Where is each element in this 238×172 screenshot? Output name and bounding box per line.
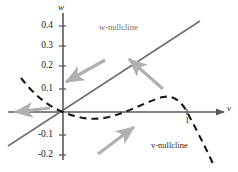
arrow-up-right [98, 127, 134, 154]
w-axis-label: w [58, 3, 64, 12]
phase-plane-figure: w v 0.4 0.3 0.2 0.1 -0.1 -0.2 1 w-nullcl… [0, 0, 238, 172]
y-tick-label-3: 0.1 [17, 84, 53, 94]
y-tick-label-0: 0.4 [17, 21, 53, 31]
y-tick-label-4: -0.1 [12, 130, 53, 140]
vector-field-arrows [15, 59, 163, 154]
y-tick-label-5: -0.2 [12, 150, 53, 160]
arrow-down-left [66, 60, 105, 82]
y-tick-label-2: 0.2 [17, 61, 53, 71]
v-nullcline-label: v-nullcline [151, 141, 188, 150]
x-tick-label-1: 1 [185, 116, 189, 125]
v-axis-label: v [227, 104, 231, 113]
y-tick-label-1: 0.3 [17, 41, 53, 51]
w-nullcline-label: w-nullcline [99, 23, 138, 32]
arrow-up-left [129, 59, 163, 89]
